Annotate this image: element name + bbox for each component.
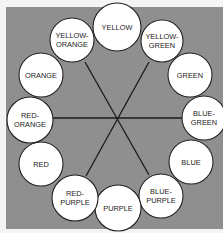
label-red: RED	[33, 160, 49, 169]
color-node-purple: PURPLE	[95, 185, 141, 231]
color-wheel-diagram: YELLOWYELLOW-GREENGREENBLUE-GREENBLUEBLU…	[0, 0, 223, 233]
color-node-red-orange: RED-ORANGE	[7, 97, 53, 143]
color-node-blue-green: BLUE-GREEN	[182, 96, 223, 140]
label-blue-purple: PURPLE	[146, 196, 176, 205]
color-node-green: GREEN	[168, 53, 212, 97]
label-yellow: YELLOW	[102, 23, 133, 32]
label-yellow-green: GREEN	[149, 41, 175, 50]
label-blue: BLUE	[181, 158, 200, 167]
label-yellow-orange: ORANGE	[56, 40, 88, 49]
color-node-orange: ORANGE	[19, 53, 63, 97]
color-nodes: YELLOWYELLOW-GREENGREENBLUE-GREENBLUEBLU…	[7, 3, 223, 231]
color-node-red-purple: RED-PURPLE	[52, 175, 98, 221]
label-green: GREEN	[177, 71, 203, 80]
color-node-blue: BLUE	[169, 140, 213, 184]
label-purple: PURPLE	[103, 204, 133, 213]
label-orange: ORANGE	[25, 71, 57, 80]
color-node-red: RED	[19, 142, 63, 186]
label-red-purple: PURPLE	[60, 198, 90, 207]
complementary-connectors	[53, 62, 182, 176]
label-red-orange: ORANGE	[14, 120, 46, 129]
color-node-blue-purple: BLUE-PURPLE	[139, 174, 183, 218]
label-blue-green: GREEN	[191, 118, 217, 127]
color-node-yellow: YELLOW	[93, 3, 141, 51]
color-node-yellow-green: YELLOW-GREEN	[141, 20, 183, 62]
color-node-yellow-orange: YELLOW-ORANGE	[50, 18, 94, 62]
